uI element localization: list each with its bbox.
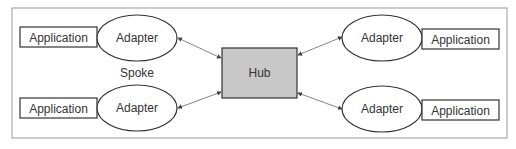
hub-node: Hub (222, 48, 297, 98)
application-label: Application (29, 102, 88, 116)
adapter-label: Adapter (361, 31, 403, 45)
hub-spoke-diagram: Hub Application Adapter Spoke Applicatio… (0, 0, 516, 149)
adapter-label: Adapter (116, 101, 158, 115)
application-label: Application (431, 104, 490, 118)
application-label: Application (29, 31, 88, 45)
hub-label: Hub (248, 66, 270, 80)
spoke-label: Spoke (120, 66, 154, 80)
adapter-label: Adapter (116, 31, 158, 45)
application-label: Application (431, 33, 490, 47)
adapter-label: Adapter (361, 102, 403, 116)
